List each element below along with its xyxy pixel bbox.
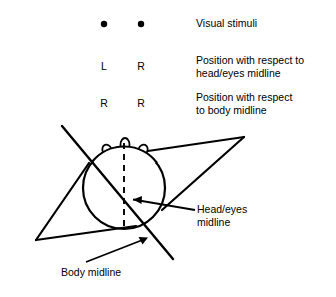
right-stimulus-dot: [138, 21, 144, 27]
row-description-head-eyes-midline: Position with respect tohead/eyes midlin…: [196, 54, 304, 80]
head-eyes-midline-label: Head/eyesmidline: [197, 203, 247, 229]
left-stimulus-dot: [101, 21, 107, 27]
callout-line2: midline: [197, 216, 230, 228]
row-description-visual-stimuli: Visual stimuli: [196, 17, 257, 30]
body-midline-leader: [86, 237, 148, 262]
row-description-line2: to body midline: [196, 104, 267, 116]
head-midline-left-value: L: [96, 60, 112, 72]
stimulus-position-diagram: Visual stimuli Position with respect toh…: [0, 0, 336, 297]
row-description-line2: head/eyes midline: [196, 67, 281, 79]
row-description-body-midline: Position with respectto body midline: [196, 91, 292, 117]
diagram-canvas: [0, 0, 336, 297]
row-description-line1: Position with respect to: [196, 54, 304, 66]
callout-line1: Head/eyes: [197, 203, 247, 215]
body-midline-label: Body midline: [61, 266, 121, 279]
head-midline-right-value: R: [133, 60, 149, 72]
row-description-line1: Position with respect: [196, 91, 292, 103]
body-midline-right-value: R: [133, 97, 149, 109]
body-midline-left-value: R: [96, 97, 112, 109]
